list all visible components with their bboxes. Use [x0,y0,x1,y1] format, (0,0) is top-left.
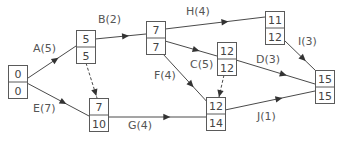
arrowhead-icon [279,70,287,76]
latest-time: 14 [209,117,223,130]
edge-label: A(5) [33,42,56,55]
earliest-time: 5 [83,33,90,46]
event-node: 00 [9,66,28,99]
edge-g: G(4) [108,114,206,132]
edge-i: I(3) [284,35,317,71]
arrowhead-icon [122,33,129,39]
edge-line [165,17,265,29]
latest-time: 15 [318,90,332,103]
edge-h: H(4) [165,5,265,29]
arrowhead-icon [51,58,59,65]
edge-j: J(1) [225,91,315,123]
event-node: 1112 [266,12,285,45]
edge-b: B(2) [95,13,146,40]
edge-dummy [217,75,224,97]
arrowhead-icon [275,96,283,102]
earliest-time: 11 [268,14,282,27]
edge-label: I(3) [298,35,317,48]
edge-dummy [86,63,97,98]
activity-network-diagram: A(5)E(7)B(2)H(4)C(5)F(4)G(4)I(3)D(3)J(1)… [0,0,343,142]
latest-time: 12 [268,31,282,44]
edge-label: C(5) [190,58,213,71]
edge-label: F(4) [154,69,176,82]
earliest-time: 12 [220,45,234,58]
earliest-time: 0 [15,68,22,81]
arrowhead-icon [217,90,223,98]
earliest-time: 7 [96,101,103,114]
edge-label: G(4) [128,119,152,132]
edge-label: H(4) [186,5,210,18]
edge-e: E(7) [25,82,89,116]
earliest-time: 7 [153,24,160,37]
earliest-time: 12 [209,100,223,113]
earliest-time: 15 [318,73,332,86]
edge-line [165,41,217,56]
latest-time: 12 [220,62,234,75]
edge-c: C(5) [165,41,217,71]
arrowhead-icon [91,88,97,96]
latest-time: 0 [15,85,22,98]
event-node: 1212 [218,43,237,76]
latest-time: 10 [92,118,106,131]
edge-line [225,91,315,110]
event-node: 55 [77,31,96,64]
edge-a: A(5) [25,42,76,80]
event-node: 1515 [316,71,335,104]
latest-time: 7 [153,41,160,54]
edge-label: E(7) [33,102,56,115]
arrowhead-icon [192,46,200,52]
edge-line [95,34,146,39]
arrowhead-icon [163,114,170,120]
event-node: 77 [147,22,166,55]
event-node: 710 [90,99,109,132]
event-node: 1214 [207,98,226,131]
arrowhead-icon [221,19,228,25]
edge-label: B(2) [98,13,121,26]
edge-label: D(3) [256,53,280,66]
edge-label: J(1) [256,110,276,123]
latest-time: 5 [83,50,90,63]
